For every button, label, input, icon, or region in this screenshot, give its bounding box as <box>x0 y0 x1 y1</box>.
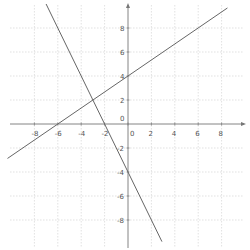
plotted-lines <box>7 4 227 242</box>
x-tick-label: 2 <box>148 130 152 138</box>
x-tick-label: 8 <box>219 130 223 138</box>
x-tick-label: 4 <box>172 130 177 138</box>
origin-label: 0 <box>120 115 124 123</box>
x-tick-label: 6 <box>195 130 200 138</box>
y-axis-arrow-icon <box>126 3 130 8</box>
x-tick-label: -4 <box>78 130 86 138</box>
tick-labels: -8-6-4-20246886420-2-4-6-8 <box>31 25 223 225</box>
x-axis-arrow-icon <box>241 122 246 126</box>
x-tick-label: 0 <box>130 130 134 138</box>
x-tick-label: -6 <box>55 130 63 138</box>
y-tick-label: 8 <box>120 25 124 33</box>
y-tick-label: -6 <box>117 193 125 201</box>
axes <box>10 3 246 248</box>
coordinate-plane: -8-6-4-20246886420-2-4-6-8 <box>0 0 250 250</box>
y-tick-label: -8 <box>117 217 124 225</box>
x-tick-label: -8 <box>31 130 38 138</box>
y-tick-label: 6 <box>120 49 125 57</box>
grid-lines <box>10 5 244 248</box>
x-tick-label: -2 <box>102 130 109 138</box>
y-tick-label: 2 <box>120 97 124 105</box>
y-tick-label: -4 <box>117 169 125 177</box>
plot-line-2 <box>46 4 162 242</box>
